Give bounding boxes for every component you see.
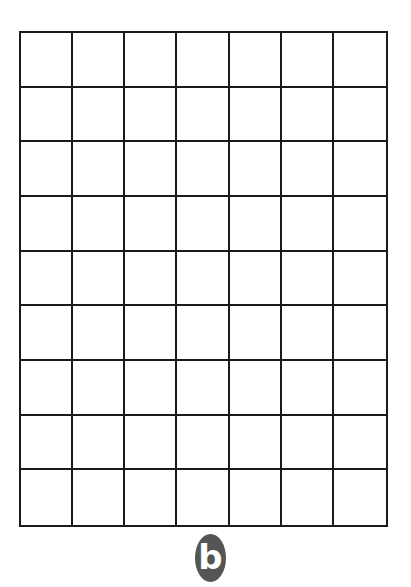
grid-cell	[282, 306, 334, 361]
grid-cell	[73, 88, 125, 143]
grid-cell	[21, 252, 73, 307]
grid-cell	[21, 33, 73, 88]
grid-cell	[177, 33, 229, 88]
grid-cell	[73, 361, 125, 416]
grid-cell	[230, 88, 282, 143]
panel-label-badge: b	[195, 534, 226, 582]
grid-cell	[282, 361, 334, 416]
grid-cell	[125, 33, 177, 88]
grid-cell	[334, 306, 386, 361]
grid-cell	[230, 470, 282, 525]
grid-cell	[177, 142, 229, 197]
grid-cell	[282, 252, 334, 307]
grid-cell	[21, 306, 73, 361]
grid-cell	[230, 252, 282, 307]
grid-cell	[73, 142, 125, 197]
grid-cell	[282, 197, 334, 252]
grid-cell	[282, 416, 334, 471]
grid-cell	[334, 197, 386, 252]
grid-cell	[177, 197, 229, 252]
grid-cell	[21, 142, 73, 197]
grid-cell	[21, 416, 73, 471]
grid-cell	[334, 252, 386, 307]
grid-cell	[73, 33, 125, 88]
grid-cell	[177, 361, 229, 416]
grid-cell	[334, 470, 386, 525]
grid-cell	[125, 142, 177, 197]
grid-cell	[230, 142, 282, 197]
grid-cell	[230, 197, 282, 252]
grid-cell	[334, 416, 386, 471]
grid-cell	[177, 88, 229, 143]
grid-cell	[125, 88, 177, 143]
grid-cell	[21, 88, 73, 143]
grid-cell	[230, 361, 282, 416]
grid-cell	[73, 306, 125, 361]
panel-label-text: b	[198, 540, 222, 574]
grid-cell	[73, 252, 125, 307]
grid-cell	[177, 416, 229, 471]
grid-cell	[282, 142, 334, 197]
grid-cell	[334, 142, 386, 197]
grid-cell	[125, 361, 177, 416]
grid-cell	[282, 33, 334, 88]
grid-cell	[230, 306, 282, 361]
grid-cell	[230, 33, 282, 88]
grid-cell	[73, 197, 125, 252]
grid-cell	[73, 416, 125, 471]
grid-cell	[282, 470, 334, 525]
grid-cell	[334, 88, 386, 143]
grid-cell	[125, 306, 177, 361]
grid-cell	[177, 306, 229, 361]
grid-cell	[125, 252, 177, 307]
grid-figure	[19, 31, 388, 527]
grid-cell	[177, 470, 229, 525]
grid-cell	[21, 361, 73, 416]
grid-cell	[177, 252, 229, 307]
grid-cell	[282, 88, 334, 143]
grid-cell	[334, 361, 386, 416]
grid-cell	[125, 416, 177, 471]
grid-cell	[230, 416, 282, 471]
grid-cell	[125, 197, 177, 252]
grid-cell	[73, 470, 125, 525]
grid-cell	[21, 197, 73, 252]
grid-cell	[334, 33, 386, 88]
grid-cell	[21, 470, 73, 525]
grid-cell	[125, 470, 177, 525]
